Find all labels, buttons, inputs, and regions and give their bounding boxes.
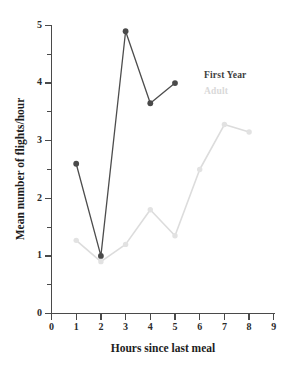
data-point-first_year-1	[73, 161, 79, 167]
data-point-adult-6	[197, 167, 202, 172]
x-axis-title: Hours since last meal	[111, 342, 215, 354]
x-tick-label-0: 0	[49, 321, 54, 332]
chart-figure: 0 1 2 3 4 5 0 1 2 3 4 5 6	[0, 0, 292, 368]
data-point-adult-3	[123, 242, 128, 247]
x-tick-label-4: 4	[148, 321, 153, 332]
data-point-adult-7	[222, 122, 227, 127]
data-point-first_year-5	[172, 80, 178, 86]
x-tick-label-7: 7	[222, 321, 227, 332]
x-tick-label-1: 1	[74, 321, 79, 332]
x-tick-label-5: 5	[173, 321, 178, 332]
data-point-adult-8	[246, 129, 251, 134]
x-tick-label-6: 6	[197, 321, 202, 332]
y-axis-title: Mean number of flights/hour	[14, 98, 27, 241]
line-chart-canvas: 0 1 2 3 4 5 0 1 2 3 4 5 6	[0, 0, 292, 368]
data-point-adult-4	[148, 207, 153, 212]
data-point-adult-2	[98, 259, 103, 264]
y-tick-label-3: 3	[37, 134, 42, 145]
data-point-adult-1	[74, 238, 79, 243]
y-tick-label-4: 4	[37, 76, 42, 87]
legend-label-first-year: First Year	[204, 70, 247, 80]
y-tick-label-2: 2	[37, 192, 42, 203]
legend-label-adult: Adult	[204, 86, 229, 96]
x-tick-label-3: 3	[123, 321, 128, 332]
y-tick-label-0: 0	[37, 307, 42, 318]
x-tick-label-2: 2	[98, 321, 103, 332]
y-tick-label-1: 1	[37, 249, 42, 260]
data-point-first_year-3	[123, 28, 129, 34]
x-tick-label-9: 9	[271, 321, 276, 332]
y-tick-label-5: 5	[37, 19, 42, 30]
data-point-adult-5	[172, 233, 177, 238]
x-tick-label-8: 8	[247, 321, 252, 332]
data-point-first_year-4	[147, 100, 153, 106]
data-point-first_year-2	[98, 253, 104, 259]
